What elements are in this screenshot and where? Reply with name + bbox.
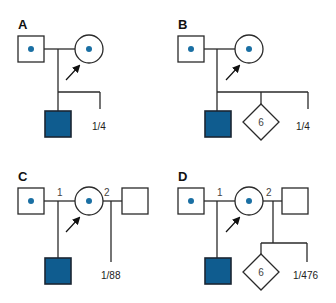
panel-label-d: D [178,169,187,184]
affected-son-square [205,258,231,284]
affected-son-square [205,111,231,137]
father2-square [282,188,308,214]
proband-arrow-icon [226,66,239,80]
proband-arrow-icon [66,218,79,232]
carrier-dot-icon [28,46,34,52]
panel-a: A 1/4 [18,17,106,137]
panel-label-a: A [18,17,28,32]
carrier-dot-icon [246,198,252,204]
probability-text: 1/88 [101,270,121,281]
panel-b: B 6 1/4 [178,17,310,140]
father2-square [122,188,148,214]
partner-number-2: 2 [266,187,272,198]
panel-d: D 1 2 6 1/476 [178,169,318,290]
carrier-dot-icon [246,46,252,52]
probability-text: 1/4 [92,121,106,132]
partner-number-1: 1 [217,187,223,198]
proband-arrow-icon [226,218,239,232]
proband-arrow-icon [66,66,79,80]
panel-label-c: C [18,169,28,184]
pedigree-figure: A 1/4 B 6 1/4 C [0,0,336,303]
partner-number-2: 2 [104,187,110,198]
sibling-count-text: 6 [258,117,264,128]
affected-son-square [45,111,71,137]
probability-text: 1/476 [293,270,318,281]
carrier-dot-icon [188,46,194,52]
carrier-dot-icon [86,198,92,204]
carrier-dot-icon [86,46,92,52]
affected-son-square [45,258,71,284]
carrier-dot-icon [28,198,34,204]
panel-label-b: B [178,17,187,32]
probability-text: 1/4 [296,121,310,132]
sibling-count-text: 6 [258,267,264,278]
carrier-dot-icon [188,198,194,204]
partner-number-1: 1 [57,187,63,198]
panel-c: C 1 2 1/88 [18,169,148,284]
